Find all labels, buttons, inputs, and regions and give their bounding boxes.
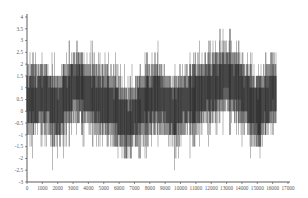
x-tick-label: 10000	[174, 185, 187, 191]
y-tick-label: -1	[19, 132, 24, 138]
x-tick-label: 2000	[53, 185, 64, 191]
y-tick-label: 2.5	[17, 49, 24, 55]
y-tick-label: -2	[19, 155, 24, 161]
x-tick-label: 1000	[37, 185, 48, 191]
y-tick-label: 1	[20, 85, 23, 91]
x-tick-label: 11000	[189, 185, 202, 191]
y-tick-label: 3.5	[17, 26, 24, 32]
y-tick-label: 3	[20, 37, 23, 43]
y-tick-label: 0	[20, 108, 23, 114]
y-tick-label: 2	[20, 61, 23, 67]
y-tick-label: -0.5	[15, 120, 24, 126]
x-tick-label: 0	[26, 185, 29, 191]
x-tick-label: 13000	[220, 185, 233, 191]
x-tick-label: 17000	[282, 185, 295, 191]
x-tick-label: 9000	[160, 185, 171, 191]
x-tick-label: 12000	[205, 185, 218, 191]
y-tick-label: -3	[19, 179, 24, 185]
x-tick-label: 5000	[99, 185, 110, 191]
x-tick-label: 8000	[145, 185, 156, 191]
y-tick-label: -1.5	[15, 143, 24, 149]
x-axis-ticks: 0100020003000400050006000700080009000100…	[26, 182, 295, 191]
x-tick-label: 3000	[68, 185, 79, 191]
y-axis-ticks: -3-2.5-2-1.5-1-0.500.511.522.533.54	[15, 14, 27, 185]
x-tick-label: 15000	[251, 185, 264, 191]
x-tick-label: 4000	[83, 185, 94, 191]
x-tick-label: 6000	[114, 185, 125, 191]
x-tick-label: 16000	[266, 185, 279, 191]
y-tick-label: 0.5	[17, 96, 24, 102]
y-tick-label: 4	[20, 14, 23, 20]
y-tick-label: -2.5	[15, 167, 24, 173]
x-tick-label: 7000	[129, 185, 140, 191]
y-tick-label: 1.5	[17, 73, 24, 79]
time-series-chart: -3-2.5-2-1.5-1-0.500.511.522.533.54 0100…	[0, 0, 308, 198]
x-tick-label: 14000	[235, 185, 248, 191]
signal-series	[27, 29, 276, 170]
